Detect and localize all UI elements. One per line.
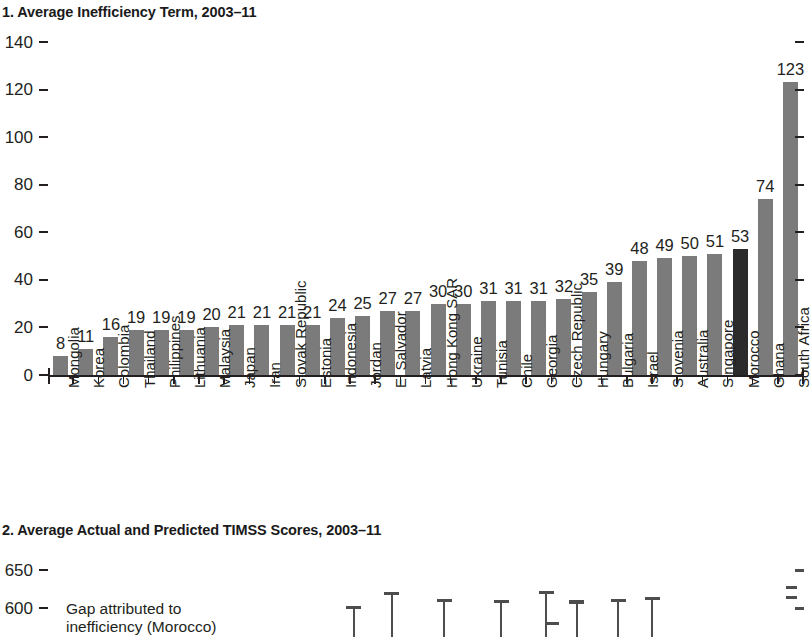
marker-stem: [651, 597, 653, 637]
category-label-jordan: Jordan: [368, 342, 383, 388]
category-label-singapore: Singapore: [720, 320, 735, 388]
panel1-y-tick-value: 0: [24, 367, 33, 384]
category-label-israel: Israel: [645, 351, 660, 388]
category-label-slovak-republic: Slovak Republic: [293, 280, 308, 388]
predicted-score-marker: [539, 591, 554, 637]
category-label-latvia: Latvia: [418, 348, 433, 388]
marker-cap: [494, 600, 509, 603]
predicted-score-marker: [437, 599, 452, 637]
marker-cap: [569, 600, 584, 603]
marker-stem: [617, 599, 619, 637]
marker-cap: [346, 606, 361, 609]
panel1-right-tick: [795, 136, 804, 138]
panel1-y-tick-dash: [39, 184, 48, 186]
panel1-y-tick-140: 140: [0, 34, 48, 51]
panel2-y-tick-650: 650: [0, 562, 48, 579]
category-label-slovenia: Slovenia: [670, 330, 685, 388]
marker-cap: [611, 599, 626, 602]
category-label-mongolia: Mongolia: [66, 327, 81, 388]
panel1-y-tick-value: 60: [14, 224, 33, 241]
predicted-score-marker: [384, 592, 399, 637]
predicted-score-marker: [346, 606, 361, 637]
x-tick: [48, 375, 50, 384]
category-label-korea: Korea: [91, 348, 106, 388]
panel1-y-tick-value: 40: [14, 271, 33, 288]
panel2-right-tick: [795, 607, 804, 610]
panel1-right-tick: [795, 279, 804, 281]
panel1-y-tick-dash: [39, 374, 48, 376]
bar-value-label: 74: [745, 178, 785, 195]
panel1-right-tick: [795, 89, 804, 91]
category-label-australia: Australia: [695, 330, 710, 388]
panel1-y-tick-dash: [39, 136, 48, 138]
panel1-y-tick-dash: [39, 326, 48, 328]
category-label-ukraine: Ukraine: [469, 336, 484, 388]
panel1-y-tick-value: 100: [5, 129, 33, 146]
category-label-chile: Chile: [519, 354, 534, 388]
marker-cap: [437, 599, 452, 602]
marker-stem: [353, 606, 355, 637]
panel1-y-tick-80: 80: [0, 176, 48, 193]
category-label-hungary: Hungary: [595, 331, 610, 388]
category-label-czech-republic: Czech Republic: [569, 283, 584, 388]
marker-stem: [500, 600, 502, 637]
marker-stem: [391, 592, 393, 637]
panel1-y-tick-100: 100: [0, 129, 48, 146]
panel2-marker-dash: [545, 622, 559, 625]
panel2-plot-area: [48, 556, 803, 631]
predicted-score-marker: [494, 600, 509, 637]
panel1-y-tick-value: 140: [5, 34, 33, 51]
panel1-plot-area: 8111619191920212121212425272730303131313…: [48, 42, 803, 375]
category-label-estonia: Estonia: [318, 338, 333, 388]
predicted-score-marker: [611, 599, 626, 637]
panel1-y-tick-20: 20: [0, 319, 48, 336]
panel1-y-tick-120: 120: [0, 81, 48, 98]
marker-stem: [545, 591, 547, 637]
category-label-el-salvador: El Salvador: [393, 311, 408, 388]
panel2-marker-dash: [786, 596, 797, 599]
category-label-colombia: Colombia: [116, 325, 131, 388]
panel1-y-tick-40: 40: [0, 271, 48, 288]
category-label-bulgaria: Bulgaria: [620, 333, 635, 388]
panel-average-inefficiency-term: 1. Average Inefficiency Term, 2003–11 14…: [0, 0, 807, 506]
category-label-hong-kong-sar: Hong Kong SAR: [444, 278, 459, 388]
category-label-ghana: Ghana: [771, 343, 786, 388]
bar-value-label: 123: [770, 61, 810, 78]
marker-cap: [645, 597, 660, 600]
panel2-title: 2. Average Actual and Predicted TIMSS Sc…: [2, 522, 381, 538]
panel1-y-tick-0: 0: [0, 367, 48, 384]
predicted-score-marker: [645, 597, 660, 637]
category-label-morocco: Morocco: [746, 330, 761, 388]
panel2-marker-dash: [786, 586, 797, 589]
panel1-y-tick-dash: [39, 231, 48, 233]
panel2-y-tick-dash: [39, 607, 48, 609]
panel1-y-tick-dash: [39, 89, 48, 91]
panel2-y-tick-dash: [39, 569, 48, 571]
panel1-title: 1. Average Inefficiency Term, 2003–11: [2, 4, 257, 20]
category-label-lithuania: Lithuania: [192, 327, 207, 388]
category-label-georgia: Georgia: [544, 335, 559, 388]
marker-cap: [539, 591, 554, 594]
bar-value-label: 39: [594, 261, 634, 278]
category-label-indonesia: Indonesia: [343, 323, 358, 388]
category-label-thailand: Thailand: [142, 330, 157, 388]
panel1-y-tick-dash: [39, 279, 48, 281]
category-label-iran: Iran: [267, 362, 282, 388]
panel2-right-tick: [795, 569, 804, 572]
category-label-south-africa: South Africa: [796, 307, 811, 388]
panel1-right-tick: [795, 41, 804, 43]
panel1-y-tick-dash: [39, 41, 48, 43]
bar-value-label: 53: [720, 228, 760, 245]
panel2-y-tick-600: 600: [0, 600, 48, 617]
marker-stem: [576, 600, 578, 637]
category-label-philippines: Philippines: [167, 315, 182, 388]
category-label-malaysia: Malaysia: [217, 329, 232, 388]
panel1-y-tick-60: 60: [0, 224, 48, 241]
panel1-right-tick: [795, 184, 804, 186]
panel1-right-tick: [795, 231, 804, 233]
marker-stem: [443, 599, 445, 637]
category-label-japan: Japan: [242, 347, 257, 388]
panel2-y-tick-value: 650: [5, 562, 33, 579]
marker-cap: [384, 592, 399, 595]
panel1-y-tick-value: 20: [14, 319, 33, 336]
